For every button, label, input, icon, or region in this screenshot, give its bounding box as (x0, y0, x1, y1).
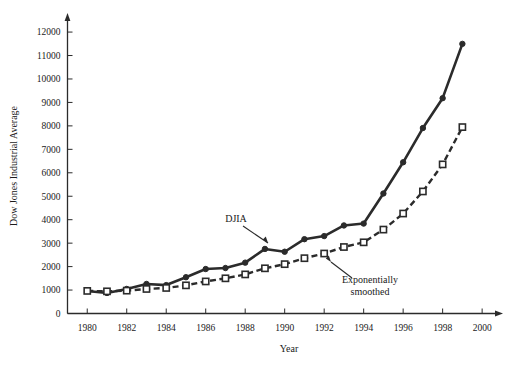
data-point-marker (203, 266, 208, 271)
y-tick-label: 3000 (42, 239, 61, 249)
y-tick-label: 2000 (42, 262, 61, 272)
y-tick-label: 10000 (37, 74, 61, 84)
data-point-marker (381, 191, 386, 196)
y-axis-title: Dow Jones Industrial Average (8, 105, 19, 226)
data-point-marker (301, 255, 307, 261)
x-tick-label: 2000 (473, 323, 492, 333)
data-point-marker (321, 233, 326, 238)
data-point-marker (460, 41, 465, 46)
x-tick-label: 1996 (394, 323, 413, 333)
data-point-marker (380, 226, 386, 232)
data-point-marker (440, 161, 446, 167)
y-tick-label: 1000 (42, 285, 61, 295)
data-point-marker (143, 286, 149, 292)
y-tick-label: 5000 (42, 192, 61, 202)
x-tick-label: 1990 (275, 323, 294, 333)
data-point-marker (223, 265, 228, 270)
x-tick-label: 1984 (157, 323, 176, 333)
data-point-marker (282, 261, 288, 267)
data-point-marker (282, 249, 287, 254)
x-tick-label: 1994 (354, 323, 373, 333)
data-point-marker (361, 221, 366, 226)
y-tick-label: 0 (56, 309, 61, 319)
x-tick-label: 1986 (196, 323, 215, 333)
dow-jones-chart: 0100020003000400050006000700080009000100… (0, 0, 518, 365)
series-annotation-label: Exponentially (342, 274, 398, 285)
series-annotation-label: smoothed (351, 286, 390, 297)
data-point-marker (203, 278, 209, 284)
data-point-marker (183, 282, 189, 288)
y-tick-label: 8000 (42, 121, 61, 131)
data-point-marker (341, 223, 346, 228)
data-point-marker (321, 250, 327, 256)
data-point-marker (104, 288, 110, 294)
series-annotation-label: DJIA (225, 213, 247, 224)
data-point-marker (242, 260, 247, 265)
data-point-marker (361, 239, 367, 245)
x-tick-label: 1980 (78, 323, 97, 333)
data-point-marker (420, 125, 425, 130)
data-point-marker (459, 124, 465, 130)
x-tick-label: 1992 (315, 323, 334, 333)
y-tick-label: 12000 (37, 27, 61, 37)
chart-canvas: 0100020003000400050006000700080009000100… (0, 0, 518, 365)
data-point-marker (222, 275, 228, 281)
data-point-marker (163, 285, 169, 291)
data-point-marker (400, 160, 405, 165)
x-axis-title: Year (280, 343, 299, 354)
data-point-marker (84, 288, 90, 294)
data-point-marker (124, 288, 130, 294)
data-point-marker (420, 188, 426, 194)
data-point-marker (341, 244, 347, 250)
data-point-marker (183, 275, 188, 280)
x-tick-label: 1982 (117, 323, 136, 333)
x-tick-label: 1988 (236, 323, 255, 333)
y-tick-label: 7000 (42, 145, 61, 155)
data-point-marker (302, 236, 307, 241)
data-point-marker (400, 210, 406, 216)
x-tick-label: 1998 (433, 323, 452, 333)
data-point-marker (440, 95, 445, 100)
data-point-marker (262, 265, 268, 271)
chart-background (0, 0, 518, 365)
data-point-marker (242, 271, 248, 277)
data-point-marker (262, 246, 267, 251)
y-tick-label: 9000 (42, 98, 61, 108)
y-tick-label: 4000 (42, 215, 61, 225)
y-tick-label: 11000 (37, 51, 61, 61)
y-tick-label: 6000 (42, 168, 61, 178)
